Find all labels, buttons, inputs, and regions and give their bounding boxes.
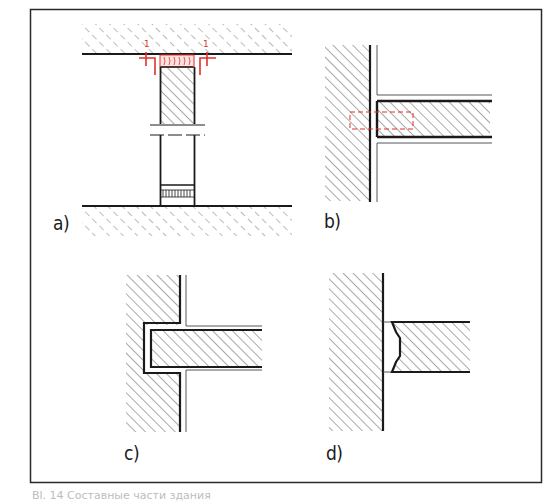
panel-d-drawing — [329, 273, 470, 431]
panel-label-b: b) — [324, 210, 341, 232]
panel-label-c: c) — [124, 442, 139, 464]
section-mark-right — [200, 52, 216, 75]
figure-frame — [31, 10, 542, 483]
panel-c-drawing — [126, 275, 262, 432]
section-mark-left — [139, 52, 155, 75]
panel-label-a: a) — [53, 212, 69, 234]
figure-canvas: 1 1 — [0, 0, 556, 502]
panel-b-drawing — [325, 45, 492, 202]
section-mark-label-right: 1 — [203, 39, 209, 49]
figure-caption: Bl. 14 Составные части здания — [32, 489, 211, 502]
panel-a-drawing — [82, 24, 292, 236]
section-mark-label-left: 1 — [144, 39, 150, 49]
panel-label-d: d) — [326, 442, 343, 464]
